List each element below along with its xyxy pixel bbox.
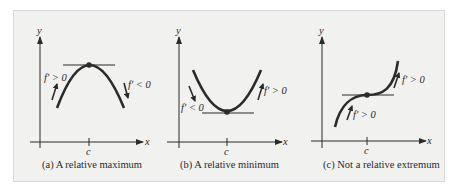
- tick-c-label: c: [224, 146, 229, 157]
- increasing-arrow-icon: [258, 84, 263, 100]
- tick-c-label: c: [86, 146, 91, 157]
- tick-c-label: c: [364, 145, 369, 156]
- decreasing-arrow-icon: [189, 86, 195, 101]
- critical-point: [364, 92, 370, 98]
- y-axis-label: y: [175, 25, 181, 36]
- right-derivative-annotation: f′ < 0: [128, 79, 152, 90]
- y-axis-label: y: [318, 25, 324, 36]
- panel-relative-minimum: y x c f′ < 0 f′ > 0 (b) A relative minim…: [167, 25, 288, 171]
- derivative-extrema-figure: y x c f′ > 0 f′ < 0 (a) A relative maxim…: [0, 0, 457, 193]
- critical-point: [86, 62, 92, 68]
- x-axis-label: x: [282, 136, 288, 147]
- y-axis-label: y: [36, 25, 42, 36]
- left-derivative-annotation: f′ < 0: [181, 102, 205, 113]
- panel-not-extremum: y x c f′ > 0 f′ > 0 (c) Not a relative e…: [311, 25, 440, 171]
- x-axis-label: x: [144, 136, 150, 147]
- panel-caption: (b) A relative minimum: [180, 159, 279, 171]
- left-derivative-annotation: f′ > 0: [44, 72, 68, 83]
- x-axis-label: x: [426, 135, 432, 146]
- left-derivative-annotation: f′ > 0: [353, 109, 377, 120]
- panel-relative-maximum: y x c f′ > 0 f′ < 0 (a) A relative maxim…: [30, 25, 152, 171]
- right-derivative-annotation: f′ > 0: [264, 85, 288, 96]
- critical-point: [224, 109, 230, 115]
- panel-caption: (a) A relative maximum: [42, 159, 142, 171]
- increasing-arrow-icon: [347, 106, 352, 120]
- increasing-arrow-icon: [52, 84, 57, 100]
- right-derivative-annotation: f′ > 0: [402, 74, 426, 85]
- concave-down-curve: [57, 65, 124, 108]
- panel-caption: (c) Not a relative extremum: [323, 159, 440, 171]
